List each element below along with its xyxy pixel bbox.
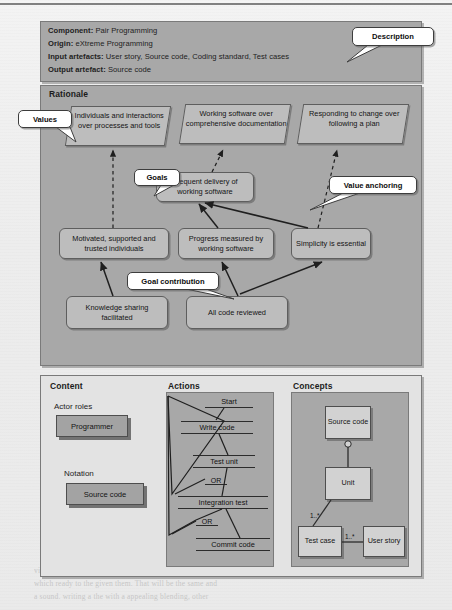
value-label: Responding to change over following a pl… — [302, 105, 406, 128]
class-unit: Unit — [325, 467, 371, 500]
description-value: eXtreme Programming — [75, 39, 152, 48]
contribution-box-knowledge-sharing: Knowledge sharing facilitated — [66, 296, 168, 329]
page-top-rule — [0, 3, 452, 5]
description-key: Input artefacts: — [48, 52, 104, 61]
action-integration-test: Integration test — [178, 496, 268, 509]
notation-source-code: Source code — [66, 483, 144, 505]
action-test-unit: Test unit — [193, 455, 255, 468]
action-branch-or-2: OR — [196, 518, 218, 526]
class-user-story: User story — [363, 526, 405, 557]
callout-description: Description — [352, 27, 434, 46]
multiplicity-unit-testcase: 1..* — [310, 512, 320, 519]
action-start: Start — [205, 396, 253, 408]
actor-role-programmer: Programmer — [56, 415, 128, 437]
value-label: Working software over comprehensive docu… — [184, 105, 288, 128]
action-write-code: Write code — [181, 421, 253, 434]
description-key: Origin: — [48, 39, 73, 48]
action-commit-code: Commit code — [196, 538, 270, 551]
goal-box-simplicity: Simplicity is essential — [291, 228, 371, 259]
description-line-output-artefact: Output artefact: Source code — [48, 65, 151, 74]
goal-box-progress-measured: Progress measured by working software — [178, 228, 274, 259]
rationale-header: Rationale — [49, 89, 88, 99]
description-value: Source code — [108, 65, 151, 74]
callout-value-anchoring: Value anchoring — [329, 176, 417, 194]
ghost-text-line: which ready to the given them. That will… — [34, 579, 217, 588]
notation-label: Notation — [64, 469, 94, 478]
actor-roles-label: Actor roles — [54, 402, 92, 411]
value-box-individuals: Individuals and interactions over proces… — [65, 106, 171, 146]
value-box-working-software: Working software over comprehensive docu… — [179, 104, 291, 144]
description-line-input-artefacts: Input artefacts: User story, Source code… — [48, 52, 289, 61]
goal-box-motivated-individuals: Motivated, supported and trusted individ… — [59, 228, 169, 259]
description-key: Output artefact: — [48, 65, 106, 74]
description-value: User story, Source code, Coding standard… — [106, 52, 289, 61]
callout-values: Values — [18, 110, 72, 128]
actions-header: Actions — [168, 381, 200, 391]
value-label: Individuals and interactions over proces… — [70, 107, 168, 130]
content-header: Content — [50, 381, 83, 391]
description-line-origin: Origin: eXtreme Programming — [48, 39, 153, 48]
callout-goal-contribution: Goal contribution — [127, 272, 219, 290]
class-test-case: Test case — [298, 526, 342, 557]
description-line-component: Component: Pair Programming — [48, 26, 157, 35]
description-key: Component: — [48, 26, 93, 35]
contribution-box-all-code-reviewed: All code reviewed — [186, 296, 288, 329]
callout-goals: Goals — [134, 169, 180, 186]
multiplicity-testcase-userstory: 1..* — [345, 533, 355, 540]
concepts-header: Concepts — [293, 381, 333, 391]
ghost-text-line: a sound. writing a the with a appealing … — [34, 592, 209, 601]
description-value: Pair Programming — [95, 26, 157, 35]
value-box-responding-to-change: Responding to change over following a pl… — [297, 104, 409, 144]
class-source-code: Source code — [325, 406, 371, 439]
action-branch-or-1: OR — [205, 477, 227, 485]
